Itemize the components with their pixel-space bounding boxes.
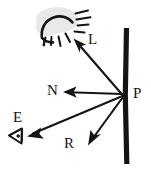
diagram-svg [0, 0, 151, 170]
eye-icon [9, 129, 22, 144]
diagram-canvas: L P N E R [0, 0, 151, 170]
surface-line [125, 28, 127, 164]
label-reflection-vector: R [64, 136, 74, 151]
label-normal-vector: N [47, 83, 58, 98]
label-surface-point: P [133, 86, 141, 101]
vector-L [74, 39, 123, 96]
label-light-vector: L [88, 32, 97, 47]
vector-N [63, 87, 123, 98]
label-eye-vector: E [13, 110, 22, 125]
vector-R [88, 97, 123, 146]
